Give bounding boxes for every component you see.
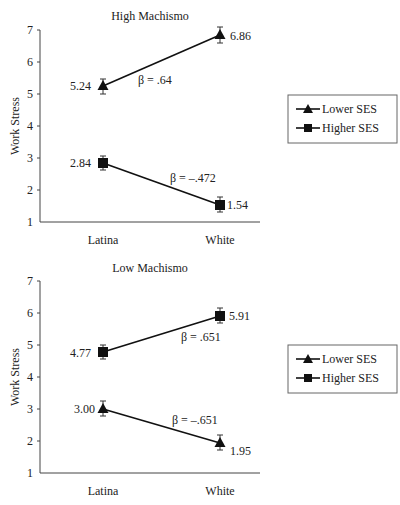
svg-text:4: 4 <box>27 370 33 384</box>
square-marker <box>215 200 225 210</box>
legend: Lower SES Higher SES <box>288 95 397 143</box>
point-label: 4.77 <box>70 346 91 360</box>
triangle-marker <box>215 29 226 39</box>
point-label: 1.95 <box>230 444 251 458</box>
legend-label-higher: Higher SES <box>322 371 379 385</box>
svg-text:5: 5 <box>27 87 33 101</box>
triangle-marker <box>98 403 109 413</box>
point-label: 2.84 <box>70 156 91 170</box>
svg-text:4: 4 <box>27 119 33 133</box>
series-lower-ses: 3.00 1.95 β = –.651 <box>74 401 251 458</box>
chart-title: High Machismo <box>111 9 189 23</box>
y-ticks: 7 6 5 4 3 2 1 <box>27 274 40 480</box>
y-ticks: 7 6 5 4 3 2 1 <box>27 23 40 229</box>
x-tick-latina: Latina <box>88 233 119 247</box>
square-marker <box>304 124 312 132</box>
point-label: 5.24 <box>70 79 91 93</box>
series-lower-ses: 5.24 6.86 β = .64 <box>70 27 251 94</box>
beta-annotation: β = –.472 <box>170 171 216 185</box>
svg-text:7: 7 <box>27 23 33 37</box>
figure: High Machismo 7 6 5 4 3 2 1 Work Stress … <box>0 0 400 505</box>
svg-text:2: 2 <box>27 183 33 197</box>
svg-text:3: 3 <box>27 151 33 165</box>
y-axis-label: Work Stress <box>8 97 22 155</box>
svg-text:1: 1 <box>27 466 33 480</box>
beta-annotation: β = –.651 <box>172 413 218 427</box>
svg-text:2: 2 <box>27 434 33 448</box>
svg-text:5: 5 <box>27 338 33 352</box>
legend-label-higher: Higher SES <box>322 121 379 135</box>
point-label: 3.00 <box>74 402 95 416</box>
svg-text:3: 3 <box>27 402 33 416</box>
chart-high-machismo: High Machismo 7 6 5 4 3 2 1 Work Stress … <box>8 9 397 247</box>
chart-low-machismo: Low Machismo 7 6 5 4 3 2 1 Work Stress L… <box>8 261 397 498</box>
svg-text:7: 7 <box>27 274 33 288</box>
legend: Lower SES Higher SES <box>288 345 397 393</box>
beta-annotation: β = .64 <box>138 73 172 87</box>
square-marker <box>98 158 108 168</box>
svg-text:6: 6 <box>27 55 33 69</box>
point-label: 5.91 <box>229 309 250 323</box>
beta-annotation: β = .651 <box>181 330 221 344</box>
svg-text:6: 6 <box>27 306 33 320</box>
point-label: 6.86 <box>230 29 251 43</box>
svg-text:1: 1 <box>27 215 33 229</box>
x-tick-latina: Latina <box>88 484 119 498</box>
series-higher-ses: 2.84 1.54 β = –.472 <box>70 156 248 212</box>
x-tick-white: White <box>205 233 234 247</box>
square-marker <box>304 374 312 382</box>
y-axis-label: Work Stress <box>8 348 22 406</box>
series-higher-ses: 4.77 5.91 β = .651 <box>70 308 250 360</box>
square-marker <box>98 347 108 357</box>
x-tick-white: White <box>205 484 234 498</box>
chart-title: Low Machismo <box>112 261 188 275</box>
legend-label-lower: Lower SES <box>322 352 377 366</box>
square-marker <box>215 311 225 321</box>
point-label: 1.54 <box>227 198 248 212</box>
legend-label-lower: Lower SES <box>322 102 377 116</box>
